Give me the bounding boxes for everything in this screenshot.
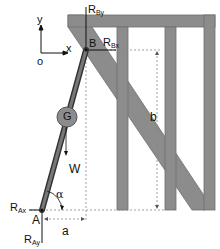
dimension-label-b: b — [150, 111, 157, 123]
label-G: G — [63, 111, 72, 122]
label-RBx: RBx — [103, 37, 119, 49]
pin-A — [41, 209, 44, 212]
label-W: W — [69, 163, 80, 175]
label-RBy: RBy — [88, 4, 104, 16]
label-alpha: α — [56, 189, 63, 200]
label-A: A — [32, 214, 40, 226]
dimension-label-a: a — [62, 225, 69, 237]
origin-label: o — [37, 56, 43, 67]
frame-post-left — [117, 27, 128, 210]
y-axis-label: y — [37, 14, 43, 25]
coordinate-axes — [39, 25, 68, 55]
y-axis-arrow-icon — [39, 25, 43, 30]
frame-post-middle — [165, 27, 176, 210]
weight-arrowhead-icon — [64, 151, 68, 156]
angle-alpha-arrowhead — [60, 205, 64, 210]
frame-top-member — [68, 15, 215, 27]
label-RAy: RAy — [24, 234, 40, 246]
x-axis-label: x — [66, 43, 72, 54]
label-RAx: RAx — [10, 202, 26, 214]
label-B: B — [89, 38, 96, 49]
rod-AB — [42, 50, 86, 210]
frame-post-right — [204, 15, 215, 210]
pin-B — [85, 49, 88, 52]
